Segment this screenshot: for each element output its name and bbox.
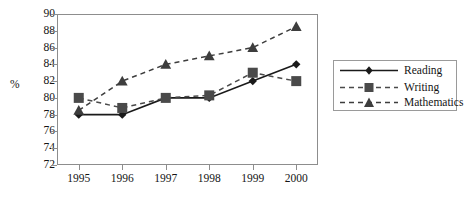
data-point-square (248, 68, 258, 78)
data-point-triangle (117, 76, 128, 86)
x-tick-label: 1998 (187, 172, 231, 184)
data-point-square (291, 76, 301, 86)
series-mathematics (73, 21, 301, 115)
series-line-writing (79, 73, 297, 108)
legend-label-mathematics: Mathematics (404, 96, 463, 108)
x-tick-mark (166, 165, 167, 170)
series-writing (74, 68, 302, 113)
x-tick-label: 1995 (57, 172, 101, 184)
x-tick-mark (122, 165, 123, 170)
y-tick-label: 78 (9, 109, 55, 120)
y-tick-label: 74 (9, 142, 55, 153)
data-point-square (204, 90, 214, 100)
x-tick-mark (296, 165, 297, 170)
x-tick-label: 1997 (144, 172, 188, 184)
data-point-square (117, 103, 127, 113)
data-point-diamond (249, 77, 257, 85)
data-point-triangle (73, 105, 84, 115)
x-tick-label: 1996 (100, 172, 144, 184)
y-tick-label: 80 (9, 92, 55, 103)
legend-marker-diamond-icon (338, 62, 400, 79)
data-point-square (74, 93, 84, 103)
y-axis: % 72747678808284868890 (0, 0, 55, 198)
y-tick-label: 84 (9, 58, 55, 69)
data-point-triangle (291, 21, 302, 31)
y-tick-label: 86 (9, 42, 55, 53)
legend-item-reading[interactable]: Reading (334, 62, 456, 79)
x-tick-mark (253, 165, 254, 170)
plot-series-layer (57, 14, 318, 165)
series-line-reading (79, 64, 297, 114)
y-tick-label: 90 (9, 8, 55, 19)
x-tick-label: 1999 (231, 172, 275, 184)
legend-label-reading: Reading (404, 64, 442, 76)
data-point-diamond (292, 60, 300, 68)
y-tick-label: 88 (9, 25, 55, 36)
y-tick-label: 82 (9, 75, 55, 86)
legend-label-writing: Writing (404, 81, 439, 93)
x-tick-mark (79, 165, 80, 170)
legend-item-mathematics[interactable]: Mathematics (334, 94, 456, 111)
y-tick-label: 72 (9, 159, 55, 170)
chart-screenshot: % 72747678808284868890 Reading Writing (0, 0, 464, 198)
legend: Reading Writing Mathematics (333, 60, 457, 111)
data-point-triangle (247, 42, 258, 52)
y-tick-label: 76 (9, 125, 55, 136)
y-tick-mark (51, 165, 57, 166)
x-tick-label: 2000 (274, 172, 318, 184)
data-point-square (161, 93, 171, 103)
legend-marker-triangle-icon (338, 94, 400, 111)
series-reading (75, 60, 301, 119)
x-tick-mark (209, 165, 210, 170)
